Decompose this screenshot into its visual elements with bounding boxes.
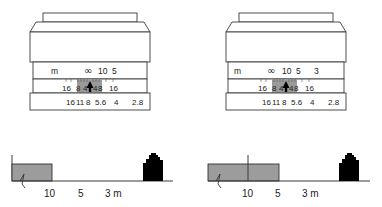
aperture-value: 11 (76, 98, 85, 107)
house-icon (339, 153, 359, 181)
aperture-value: 5.6 (95, 98, 107, 107)
house-icon (143, 153, 163, 181)
dof-value: 16 (258, 84, 267, 93)
lens-right: m ∞ 10 5 3 16 8 4 4 8 16 16 11 8 5.6 4 2… (226, 13, 346, 110)
dof-value: 4 (279, 84, 284, 93)
distance-value: 3 (314, 66, 319, 76)
dof-value: 16 (305, 84, 314, 93)
aperture-value: 8 (86, 98, 91, 107)
distance-value: 10 (282, 66, 292, 76)
aperture-value: 4 (310, 98, 315, 107)
distance-value: 5 (112, 66, 117, 76)
dof-value: 16 (62, 84, 71, 93)
lens-body (226, 32, 346, 62)
aperture-value: 4 (114, 98, 119, 107)
lens-chamfer (30, 22, 150, 32)
aperture-value: 16 (262, 98, 271, 107)
dof-value: 8 (76, 84, 81, 93)
aperture-value: 5.6 (291, 98, 303, 107)
lens-left: m ∞ 10 5 16 8 4 4 8 16 16 11 8 5. (30, 13, 150, 110)
lens-chamfer (226, 22, 346, 32)
dof-value: 8 (98, 84, 103, 93)
distance-label: 5 (275, 188, 281, 199)
sharp-zone (208, 164, 279, 181)
distance-label: 3 m (105, 188, 122, 199)
distance-label: 5 (78, 188, 84, 199)
distance-line-right: 10 5 3 m (208, 153, 370, 199)
distance-label: 3 m (302, 188, 319, 199)
aperture-value: 16 (66, 98, 75, 107)
dof-value: 8 (272, 84, 277, 93)
distance-label: 10 (242, 188, 254, 199)
distance-value: ∞ (84, 65, 92, 76)
distance-unit-label: m (234, 66, 241, 76)
distance-value: ∞ (267, 65, 275, 76)
diagram-canvas: m ∞ 10 5 16 8 4 4 8 16 16 11 8 5. (0, 0, 382, 207)
aperture-value: 2.8 (328, 98, 340, 107)
lens-front-cap (239, 13, 333, 22)
sharp-zone (12, 164, 52, 181)
aperture-value: 2.8 (132, 98, 144, 107)
distance-value: 5 (296, 66, 301, 76)
lens-front-cap (43, 13, 137, 22)
aperture-value: 11 (272, 98, 281, 107)
dof-value: 8 (294, 84, 299, 93)
distance-unit-label: m (51, 66, 58, 76)
lens-body (30, 32, 150, 62)
distance-label: 10 (44, 188, 56, 199)
aperture-value: 8 (282, 98, 287, 107)
distance-line-left: 10 5 3 m (12, 153, 173, 199)
distance-value: 10 (98, 66, 108, 76)
dof-value: 16 (109, 84, 118, 93)
dof-value: 4 (83, 84, 88, 93)
